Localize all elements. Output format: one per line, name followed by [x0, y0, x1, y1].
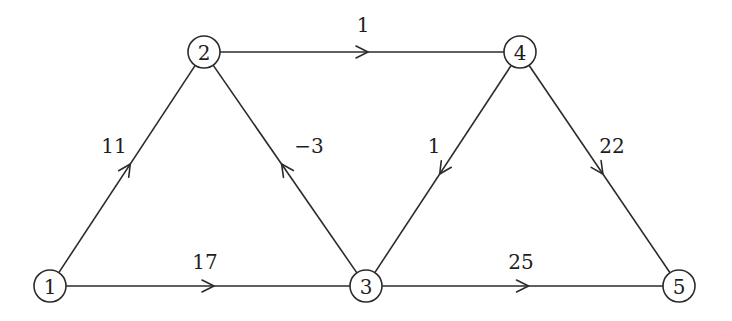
directed-graph: 12345 111−31221725 — [0, 0, 732, 321]
node-label: 5 — [673, 275, 686, 299]
edge-weight-label: 11 — [101, 134, 126, 158]
node-label: 4 — [514, 41, 527, 65]
edge-weight-label: 25 — [508, 250, 533, 274]
edge-2-to-4 — [220, 46, 504, 58]
edge-weight-label: 22 — [599, 134, 624, 158]
edge-weight-label: 1 — [357, 13, 370, 37]
edge-3-to-5 — [382, 280, 663, 292]
edge-line — [59, 65, 195, 272]
node-2: 2 — [188, 36, 220, 68]
node-3: 3 — [350, 270, 382, 302]
edge-1-to-3 — [66, 280, 350, 292]
node-label: 1 — [44, 275, 57, 299]
edge-line — [375, 65, 511, 272]
edge-3-to-2 — [213, 65, 357, 273]
node-4: 4 — [504, 36, 536, 68]
edge-weight-label: −3 — [294, 134, 323, 158]
edge-4-to-3 — [375, 65, 511, 272]
node-label: 2 — [198, 41, 211, 65]
edge-4-to-5 — [529, 65, 670, 273]
edge-weight-label: 17 — [192, 250, 217, 274]
node-label: 3 — [360, 275, 373, 299]
edges-layer — [59, 46, 670, 292]
node-1: 1 — [34, 270, 66, 302]
edge-line — [529, 65, 670, 273]
edge-1-to-2 — [59, 65, 195, 272]
edge-weight-label: 1 — [428, 134, 441, 158]
edge-line — [213, 65, 357, 273]
nodes-layer: 12345 — [34, 36, 695, 302]
node-5: 5 — [663, 270, 695, 302]
